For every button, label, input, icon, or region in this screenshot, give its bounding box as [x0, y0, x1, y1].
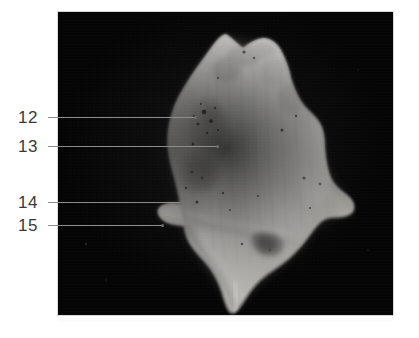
callout-number-13[interactable]: 13	[18, 138, 38, 155]
callout-number-14[interactable]: 14	[18, 194, 38, 211]
callout-number-15[interactable]: 15	[18, 217, 38, 234]
leader-line-15	[48, 225, 163, 226]
anatomical-figure: 12 13 14 15	[0, 0, 419, 338]
photo-bottom-edge	[58, 316, 393, 322]
specimen-photograph	[58, 12, 393, 315]
callout-number-12[interactable]: 12	[18, 109, 38, 126]
rough-depression	[179, 155, 218, 193]
bone-spur	[159, 203, 184, 223]
leader-line-12	[48, 117, 196, 118]
leader-line-14	[48, 202, 182, 203]
leader-line-13	[48, 146, 218, 147]
bone-specimen-illustration	[58, 12, 393, 315]
foramina-cluster	[190, 98, 226, 150]
